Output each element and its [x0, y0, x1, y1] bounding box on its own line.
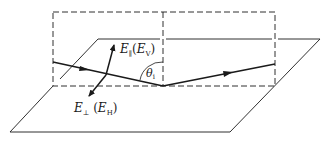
plane-of-incidence: [53, 12, 275, 86]
reflected-arrow-icon: [223, 71, 233, 77]
e-perp-label: E⊥ (EH): [73, 101, 117, 117]
e-parallel-vector: [106, 45, 114, 75]
e-perp-vector: [89, 75, 106, 96]
reflected-ray: [163, 64, 275, 86]
angle-label: θi: [146, 67, 156, 81]
e-parallel-label: E∥(EV): [119, 42, 155, 58]
reflection-diagram: E∥(EV) E⊥ (EH) θi: [0, 0, 331, 142]
